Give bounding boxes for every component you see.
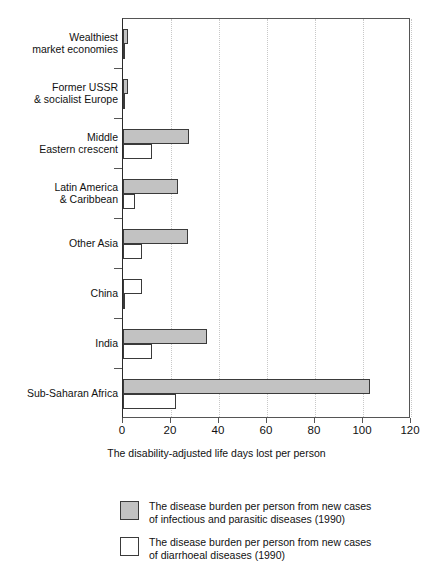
legend-label-line: The disease burden per person from new c… (149, 500, 371, 513)
bar-diarrhoeal (123, 394, 176, 409)
bar-group (123, 269, 409, 319)
y-label-line: & socialist Europe (0, 93, 118, 105)
y-label-line: India (0, 337, 118, 349)
legend-item: The disease burden per person from new c… (120, 500, 420, 525)
x-axis-tick (170, 418, 171, 423)
y-axis-category-label: China (0, 287, 118, 299)
y-label-line: Other Asia (0, 237, 118, 249)
bar-infectious (123, 379, 370, 394)
y-label-line: Latin America (0, 181, 118, 193)
bar-diarrhoeal (123, 94, 125, 109)
y-label-line: & Caribbean (0, 193, 118, 205)
bar-group (123, 169, 409, 219)
legend-label: The disease burden per person from new c… (149, 536, 371, 561)
plot-area (122, 18, 410, 418)
x-axis-tick-label: 100 (342, 424, 382, 436)
y-axis-category-label: MiddleEastern crescent (0, 131, 118, 155)
y-axis-category-label: India (0, 337, 118, 349)
bar-infectious (123, 179, 178, 194)
bar-infectious (123, 294, 125, 309)
y-axis-labels: Wealthiestmarket economiesFormer USSR& s… (0, 18, 118, 418)
bar-infectious (123, 79, 128, 94)
x-axis-tick-label: 20 (150, 424, 190, 436)
y-axis-tick (114, 168, 122, 169)
bar-group (123, 19, 409, 69)
bar-diarrhoeal (123, 194, 135, 209)
legend-label-line: of infectious and parasitic diseases (19… (149, 513, 371, 526)
bar-group (123, 369, 409, 419)
bar-diarrhoeal (123, 344, 152, 359)
y-label-line: market economies (0, 43, 118, 55)
y-axis-tick (114, 68, 122, 69)
y-axis-tick (114, 268, 122, 269)
x-axis-tick (122, 418, 123, 423)
x-axis-tick (314, 418, 315, 423)
x-axis-tick (266, 418, 267, 423)
bar-infectious (123, 129, 189, 144)
y-axis-category-label: Former USSR& socialist Europe (0, 81, 118, 105)
y-label-line: Sub-Saharan Africa (0, 387, 118, 399)
legend-label: The disease burden per person from new c… (149, 500, 371, 525)
bar-group (123, 319, 409, 369)
legend-label-line: The disease burden per person from new c… (149, 536, 371, 549)
y-axis-tick (114, 318, 122, 319)
bar-diarrhoeal (123, 144, 152, 159)
legend-label-line: of diarrhoeal diseases (1990) (149, 549, 371, 562)
x-axis-tick-label: 80 (294, 424, 334, 436)
y-axis-category-label: Wealthiestmarket economies (0, 31, 118, 55)
x-axis-tick-label: 120 (390, 424, 430, 436)
legend-swatch-diarrhoeal (120, 537, 139, 556)
x-axis-tick-label: 60 (246, 424, 286, 436)
y-label-line: Eastern crescent (0, 143, 118, 155)
bar-diarrhoeal (123, 244, 142, 259)
bar-infectious (123, 29, 128, 44)
x-axis: 020406080100120 (122, 418, 410, 448)
bar-infectious (123, 329, 207, 344)
legend-swatch-infectious (120, 501, 139, 520)
y-axis-category-label: Latin America& Caribbean (0, 181, 118, 205)
y-label-line: Wealthiest (0, 31, 118, 43)
chart-legend: The disease burden per person from new c… (120, 500, 420, 572)
y-axis-tick (114, 368, 122, 369)
y-label-line: Middle (0, 131, 118, 143)
y-label-line: China (0, 287, 118, 299)
bar-diarrhoeal (123, 44, 125, 59)
y-label-line: Former USSR (0, 81, 118, 93)
x-axis-tick-label: 40 (198, 424, 238, 436)
bar-group (123, 219, 409, 269)
legend-item: The disease burden per person from new c… (120, 536, 420, 561)
gridline (411, 19, 412, 417)
x-axis-tick-label: 0 (102, 424, 142, 436)
bar-infectious (123, 229, 188, 244)
y-axis-tick (114, 218, 122, 219)
bar-group (123, 119, 409, 169)
y-axis-category-label: Other Asia (0, 237, 118, 249)
x-axis-tick (218, 418, 219, 423)
bar-diarrhoeal (123, 279, 142, 294)
y-axis-category-label: Sub-Saharan Africa (0, 387, 118, 399)
y-axis-tick (114, 118, 122, 119)
bar-group (123, 69, 409, 119)
x-axis-title: The disability-adjusted life days lost p… (0, 447, 433, 459)
chart-figure: Wealthiestmarket economiesFormer USSR& s… (0, 0, 433, 578)
x-axis-tick (362, 418, 363, 423)
x-axis-tick (410, 418, 411, 423)
